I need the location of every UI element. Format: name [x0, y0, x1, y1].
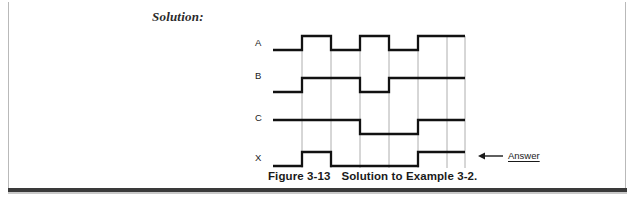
signal-label-a: A	[255, 37, 262, 48]
signal-label-b: B	[255, 70, 261, 81]
signal-label-c: C	[255, 112, 262, 123]
waveform-b	[273, 78, 465, 92]
signal-label-x: X	[255, 152, 262, 163]
left-arrow-icon	[478, 151, 504, 161]
answer-annotation: Answer	[478, 150, 540, 161]
gridlines	[302, 36, 465, 168]
figure-number: Figure 3-13	[268, 170, 330, 182]
waveform-a	[273, 36, 465, 50]
answer-label: Answer	[508, 150, 540, 161]
timing-diagram: A B C X	[252, 28, 477, 168]
page-bottom-rule-shadow	[8, 192, 627, 194]
waveform-x	[273, 152, 465, 166]
figure-caption-text: Solution to Example 3-2.	[341, 170, 477, 182]
timing-diagram-svg: A B C X	[252, 28, 477, 168]
page-scan: Solution: A B C X	[0, 0, 636, 210]
solution-label: Solution:	[152, 9, 204, 25]
figure-caption: Figure 3-13 Solution to Example 3-2.	[268, 170, 477, 182]
